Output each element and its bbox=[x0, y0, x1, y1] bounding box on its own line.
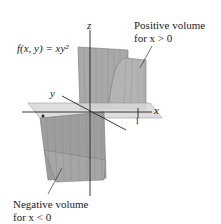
x-axis-label: x bbox=[154, 104, 159, 116]
function-label: f(x, y) = xy² bbox=[17, 42, 69, 54]
z-axis-label: z bbox=[87, 19, 91, 31]
x-tick-one-label: 1 bbox=[135, 115, 140, 127]
surface-diagram bbox=[0, 0, 221, 224]
surface-lower bbox=[40, 112, 106, 182]
positive-volume-line1: Positive volume bbox=[134, 19, 205, 31]
negative-volume-line2: for x < 0 bbox=[13, 211, 51, 223]
tick-y-dot bbox=[42, 115, 45, 118]
y-axis-label: y bbox=[50, 87, 55, 99]
negative-volume-line1: Negative volume bbox=[13, 198, 88, 210]
positive-volume-line2: for x > 0 bbox=[134, 32, 172, 44]
